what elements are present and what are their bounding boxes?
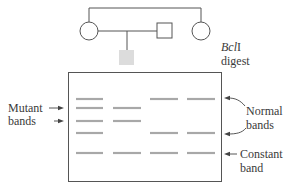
pedigree-female-left — [80, 22, 98, 40]
constant-label-line2: band — [240, 161, 263, 175]
enzyme-label: BclI — [221, 40, 241, 54]
pedigree-child-affected — [119, 50, 134, 65]
arrowhead-icon — [224, 96, 230, 100]
normal-label-line1: Normal — [246, 104, 283, 118]
arrowhead-icon — [224, 132, 230, 136]
mutant-label-line2: bands — [8, 114, 36, 128]
constant-label-line1: Constant — [240, 147, 283, 161]
normal-arrow-lower — [228, 128, 246, 134]
pedigree — [80, 8, 210, 65]
gel-frame — [69, 73, 222, 182]
mutant-label-line1: Mutant — [8, 101, 43, 115]
pedigree-top-line — [89, 8, 201, 22]
enzyme-name: Bcl — [221, 40, 237, 54]
normal-label-line2: bands — [246, 118, 274, 132]
enzyme-suffix: I — [237, 40, 241, 54]
arrowhead-icon — [224, 152, 230, 156]
pedigree-female-right — [192, 22, 210, 40]
arrowhead-icon — [58, 119, 64, 123]
pedigree-male — [157, 23, 172, 38]
normal-arrow-upper — [228, 98, 245, 106]
arrowhead-icon — [58, 106, 64, 110]
digest-label: digest — [221, 54, 250, 68]
